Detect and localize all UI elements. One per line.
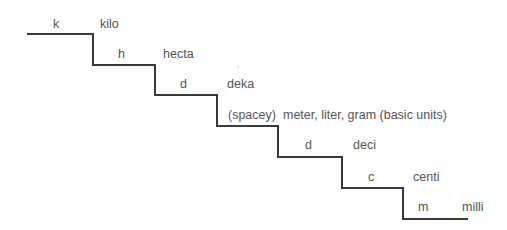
- step-milli-name: milli: [462, 200, 484, 214]
- step-base-abbr: (spacey): [228, 108, 276, 122]
- step-centi-abbr: c: [368, 170, 374, 184]
- step-centi-name: centi: [413, 170, 439, 184]
- step-deci-name: deci: [353, 138, 376, 152]
- step-base-name: meter, liter, gram (basic units): [283, 108, 447, 122]
- step-milli-abbr: m: [418, 200, 428, 214]
- step-kilo-name: kilo: [100, 17, 119, 31]
- step-deka-name: deka: [227, 77, 254, 91]
- stray-mark: [237, 66, 239, 68]
- step-kilo-abbr: k: [53, 17, 59, 31]
- step-deci-abbr: d: [305, 138, 312, 152]
- step-hecta-abbr: h: [118, 47, 125, 61]
- step-hecta-name: hecta: [163, 47, 194, 61]
- step-deka-abbr: d: [180, 77, 187, 91]
